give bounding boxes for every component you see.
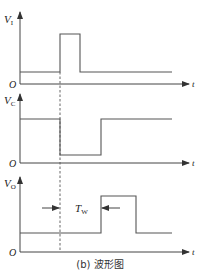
vo-y-label: VO	[4, 177, 16, 191]
figure-caption: (b) 波形图	[76, 258, 123, 270]
vo-t-label: t	[192, 247, 195, 257]
vo-origin-label: O	[9, 247, 16, 258]
vi-y-label: VI	[4, 13, 14, 27]
vc-t-label: t	[192, 158, 195, 168]
waveform-figure: VI O t VC O t VO O t TW (b) 波形图	[0, 0, 201, 270]
vi-waveform	[20, 34, 172, 72]
vi-origin-label: O	[9, 79, 16, 90]
tw-label: TW	[75, 202, 88, 216]
vo-waveform	[20, 196, 172, 233]
vc-origin-label: O	[9, 158, 16, 169]
panel-vo: VO O t TW	[4, 177, 195, 258]
panel-vc: VC O t	[4, 94, 195, 169]
panel-vi: VI O t	[4, 12, 195, 90]
vi-t-label: t	[192, 79, 195, 89]
vc-y-label: VC	[4, 94, 16, 108]
vc-waveform	[20, 119, 172, 155]
